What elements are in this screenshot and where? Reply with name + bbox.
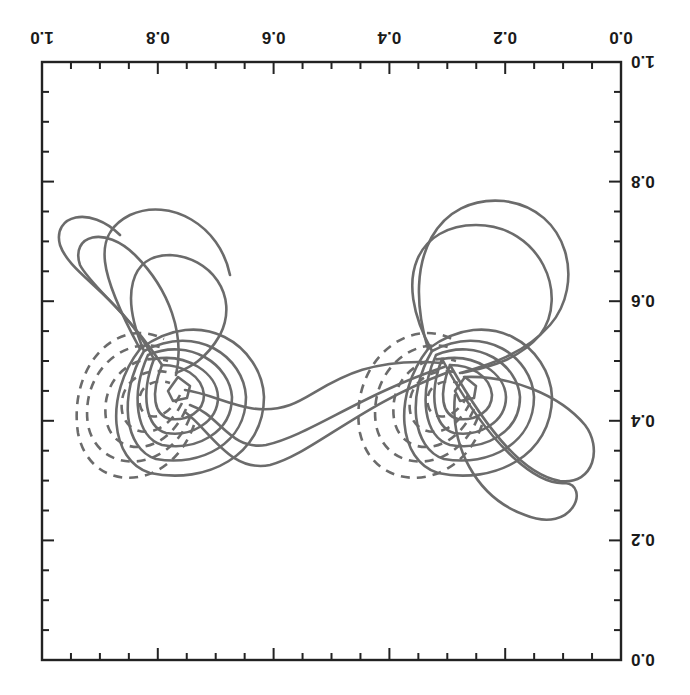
- axis-ticks: [42, 62, 621, 660]
- x-tick-label: 0.2: [493, 28, 517, 47]
- contours: [59, 201, 594, 520]
- y-tick-label: 1.0: [631, 52, 655, 71]
- axis-tick-labels: 0.00.20.40.60.81.00.00.20.40.60.81.0: [30, 28, 654, 669]
- axes: 0.00.20.40.60.81.00.00.20.40.60.81.0: [30, 28, 654, 669]
- x-tick-label: 0.0: [609, 28, 633, 47]
- contour-plot: 0.00.20.40.60.81.00.00.20.40.60.81.0: [0, 0, 690, 695]
- y-tick-label: 0.2: [631, 530, 655, 549]
- y-tick-label: 0.6: [631, 291, 655, 310]
- x-tick-label: 0.4: [377, 28, 401, 47]
- y-tick-label: 0.4: [630, 411, 654, 430]
- y-tick-label: 0.0: [631, 650, 655, 669]
- dipole-a: [185, 201, 594, 520]
- x-tick-label: 1.0: [30, 28, 54, 47]
- x-tick-label: 0.6: [262, 28, 286, 47]
- x-tick-label: 0.8: [146, 28, 170, 47]
- y-tick-label: 0.8: [631, 172, 655, 191]
- plot-frame: [42, 62, 621, 660]
